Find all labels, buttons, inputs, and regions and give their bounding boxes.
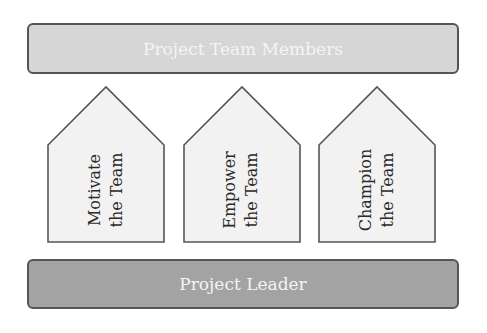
house-label-line1: Motivate <box>85 154 104 226</box>
house-motivate: Motivate the Team <box>48 87 164 242</box>
project-leader-bar: Project Leader <box>27 259 459 309</box>
house-label-line2: the Team <box>242 153 261 228</box>
house-empower: Empower the Team <box>184 87 300 242</box>
house-label-line1: Champion <box>356 149 375 232</box>
house-champion: Champion the Team <box>319 87 435 242</box>
house-shape <box>319 87 435 242</box>
house-label-line2: the Team <box>378 153 397 228</box>
house-shape <box>48 87 164 242</box>
project-leader-label: Project Leader <box>179 274 306 294</box>
house-label-line1: Empower <box>220 151 239 229</box>
house-label-line2: the Team <box>107 153 126 228</box>
